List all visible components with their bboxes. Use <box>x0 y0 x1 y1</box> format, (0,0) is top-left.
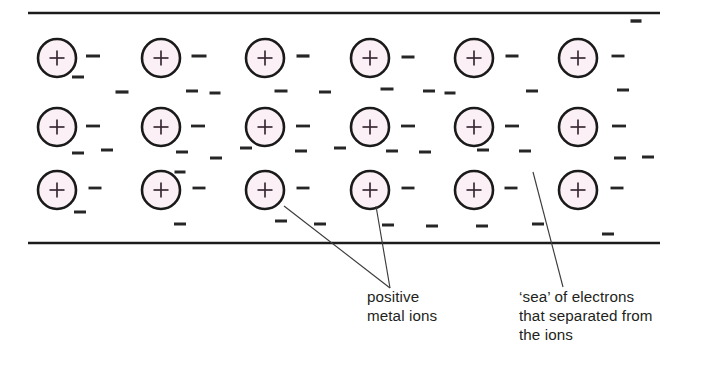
callout-line: the ions <box>519 326 573 343</box>
callout-line: that separated from <box>519 307 653 324</box>
positive-metal-ion <box>38 108 76 146</box>
positive-metal-ion <box>455 171 493 209</box>
callout-labels-group: positivemetal ions‘sea’ of electronsthat… <box>367 288 653 343</box>
leader-ion-right <box>376 206 390 288</box>
positive-metal-ion <box>559 39 597 77</box>
positive-metal-ion <box>559 171 597 209</box>
positive-metal-ion <box>142 108 180 146</box>
positive-metal-ion <box>455 39 493 77</box>
positive-metal-ion <box>351 39 389 77</box>
positive-ions-group <box>38 39 597 209</box>
leader-ion-left <box>284 206 390 288</box>
positive-metal-ion <box>142 39 180 77</box>
positive-metal-ion <box>38 171 76 209</box>
positive-metal-ion <box>455 108 493 146</box>
positive-metal-ion <box>246 39 284 77</box>
metallic-bonding-diagram: positivemetal ions‘sea’ of electronsthat… <box>0 0 725 374</box>
positive-metal-ion <box>246 108 284 146</box>
callout-line: positive <box>367 288 419 305</box>
callout-line: ‘sea’ of electrons <box>519 288 635 305</box>
positive-metal-ion <box>246 171 284 209</box>
positive-metal-ion <box>351 108 389 146</box>
positive-metal-ion <box>559 108 597 146</box>
positive-metal-ion <box>142 171 180 209</box>
callout-line: metal ions <box>367 307 438 324</box>
positive-metal-ion <box>38 39 76 77</box>
lattice-svg-canvas: positivemetal ions‘sea’ of electronsthat… <box>0 0 725 374</box>
callout-positive-metal-ions: positivemetal ions <box>367 288 438 324</box>
leader-lines-group <box>284 172 563 288</box>
positive-metal-ion <box>351 171 389 209</box>
callout-sea-of-electrons: ‘sea’ of electronsthat separated fromthe… <box>519 288 653 343</box>
